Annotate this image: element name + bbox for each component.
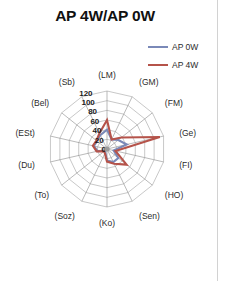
- radial-tick-100: 100: [81, 98, 95, 107]
- category-label-HO: (HO): [165, 190, 184, 200]
- page-title: AP 4W/AP 0W: [0, 7, 210, 25]
- radial-tick-120: 120: [79, 89, 93, 98]
- category-label-FM: (FM): [165, 98, 183, 108]
- category-label-To: (To): [34, 190, 49, 200]
- radar-center-marker: [104, 146, 109, 151]
- category-label-LM: (LM): [98, 70, 116, 80]
- legend-item-ap-0w[interactable]: AP 0W: [148, 40, 214, 54]
- category-label-Bel: (Bel): [31, 98, 49, 108]
- category-label-Sen: (Sen): [139, 211, 160, 221]
- radar-plot: 020406080100120 (LM)(GM)(FM)(Ge)(FI)(HO)…: [0, 58, 215, 258]
- legend-label-ap-0w: AP 0W: [172, 42, 198, 52]
- radial-tick-80: 80: [88, 107, 97, 116]
- axis-spoke-Soz: [82, 149, 107, 201]
- radar-chart-svg: 020406080100120 (LM)(GM)(FM)(Ge)(FI)(HO)…: [0, 58, 215, 258]
- category-label-Sb: (Sb): [59, 77, 75, 87]
- category-label-Du: (Du): [18, 160, 35, 170]
- category-label-Ge: (Ge): [179, 128, 196, 138]
- radial-tick-40: 40: [93, 126, 102, 135]
- category-label-FI: (FI): [179, 160, 192, 170]
- chart-figure: AP 4W/AP 0W AP 0W AP 4W 020406080100120 …: [0, 0, 225, 281]
- radial-tick-20: 20: [95, 136, 104, 145]
- figure-right-border: [217, 0, 218, 281]
- category-label-Soz: (Soz): [55, 211, 75, 221]
- category-label-GM: (GM): [139, 77, 159, 87]
- legend-swatch-ap-0w: [148, 46, 168, 48]
- category-label-Ko: (Ko): [99, 218, 115, 228]
- radial-tick-60: 60: [90, 117, 99, 126]
- category-label-ESt: (ESt): [15, 128, 35, 138]
